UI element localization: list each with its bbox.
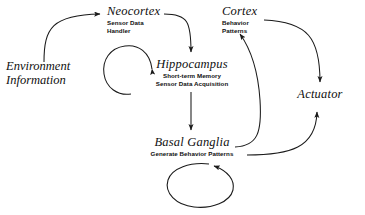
node-cortex: Cortex Behavior Patterns [222, 5, 257, 34]
edge-basal-ganglia-to-cortex [235, 34, 260, 147]
node-actuator: Actuator [292, 88, 348, 101]
node-basal-ganglia-caption-line1: Generate Behavior Patterns [137, 150, 247, 158]
node-neocortex: Neocortex Sensor Data Handler [107, 5, 160, 34]
diagram-edges [0, 0, 365, 215]
node-environment: Environment Information [6, 60, 70, 87]
node-environment-title-line1: Environment [6, 60, 70, 74]
node-neocortex-title: Neocortex [107, 5, 160, 18]
node-hippocampus-caption-line1: Short-term Memory [138, 72, 246, 80]
node-hippocampus-title: Hippocampus [138, 58, 246, 71]
node-actuator-title: Actuator [292, 88, 348, 101]
node-basal-ganglia: Basal Ganglia Generate Behavior Patterns [137, 136, 247, 158]
node-neocortex-caption-line1: Sensor Data [107, 19, 160, 27]
node-hippocampus-caption-line2: Sensor Data Acquisition [138, 80, 246, 88]
node-hippocampus: Hippocampus Short-term Memory Sensor Dat… [138, 58, 246, 87]
edge-neocortex-to-hippocampus [164, 14, 191, 52]
node-cortex-caption-line2: Patterns [222, 27, 257, 35]
node-neocortex-caption-line2: Handler [107, 27, 160, 35]
edge-basal-ganglia-self-loop [167, 164, 233, 208]
edge-cortex-to-actuator [264, 20, 320, 82]
node-cortex-title: Cortex [222, 5, 257, 18]
node-basal-ganglia-title: Basal Ganglia [137, 136, 247, 149]
node-cortex-caption-line1: Behavior [222, 19, 257, 27]
edge-environment-to-neocortex [44, 14, 100, 62]
node-environment-title-line2: Information [6, 74, 70, 88]
diagram-canvas: Environment Information Neocortex Sensor… [0, 0, 365, 215]
